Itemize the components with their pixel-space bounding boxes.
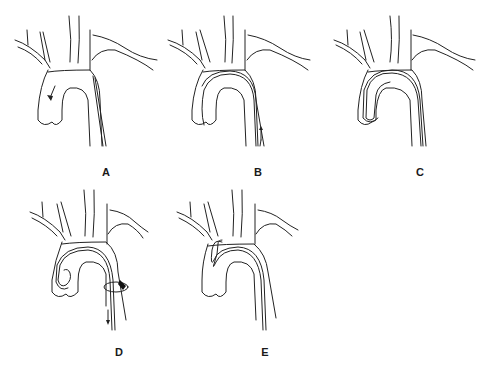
aortic-arch-diagram-c bbox=[320, 0, 491, 185]
arrow-down-icon bbox=[47, 95, 53, 101]
panel-d: D bbox=[0, 180, 165, 369]
panel-label-a: A bbox=[96, 166, 116, 178]
arrow-up-icon bbox=[259, 126, 263, 130]
panel-label-b: B bbox=[248, 166, 268, 178]
panel-label-c: C bbox=[410, 166, 430, 178]
aortic-arch-diagram-d bbox=[0, 180, 165, 369]
aortic-arch-diagram-e bbox=[160, 180, 325, 369]
arrow-down-icon bbox=[106, 320, 110, 325]
panel-a: A bbox=[0, 0, 165, 185]
aortic-arch-diagram-b bbox=[160, 0, 325, 185]
panel-label-d: D bbox=[109, 346, 129, 358]
panel-label-e: E bbox=[255, 346, 275, 358]
panel-b: B bbox=[160, 0, 325, 185]
aortic-arch-diagram-a bbox=[0, 0, 165, 185]
panel-c: C bbox=[320, 0, 491, 185]
panel-e: E bbox=[160, 180, 325, 369]
